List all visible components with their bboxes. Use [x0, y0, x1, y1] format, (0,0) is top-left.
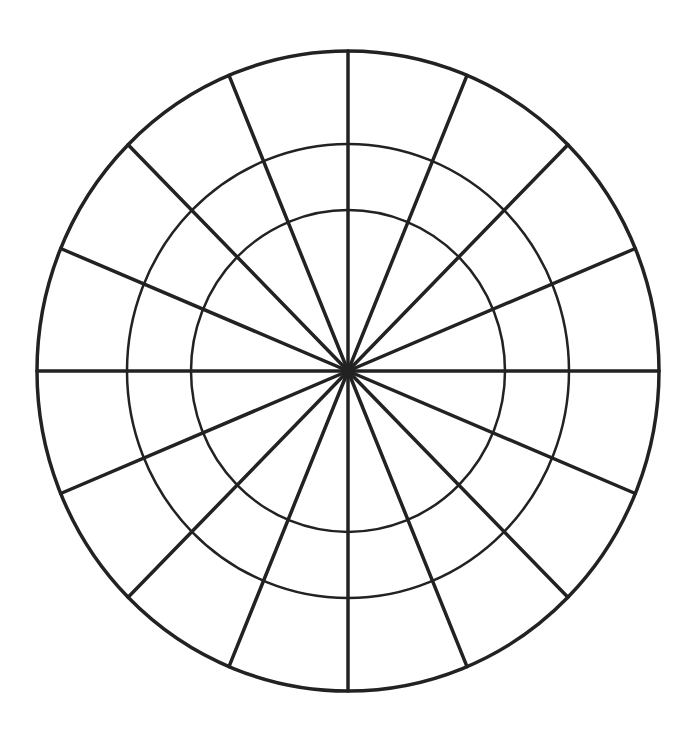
spoke-line [348, 371, 568, 597]
spoke-line [348, 145, 568, 371]
center-hub [342, 365, 354, 377]
spoke-line [128, 371, 348, 597]
polar-grid-diagram [0, 0, 694, 732]
spoke-line [128, 145, 348, 371]
